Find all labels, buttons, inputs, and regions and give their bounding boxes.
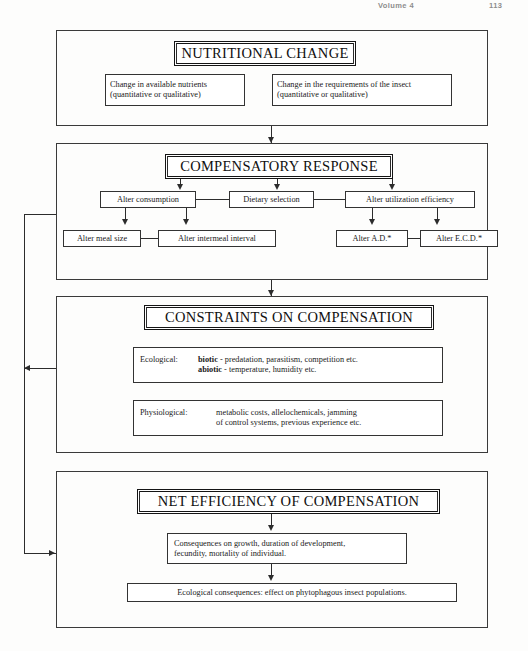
ecological-abiotic-text: temperature, humidity etc. [229, 365, 317, 374]
box-ecological-consequences-line1: Ecological consequences: effect on phyto… [128, 587, 456, 599]
box-insect-requirements: Change in the requirements of the insect… [272, 74, 452, 106]
box-dietary-selection-label: Dietary selection [230, 194, 313, 206]
running-head-right: 113 [489, 1, 502, 10]
arrowhead-alter-meal-size [122, 219, 128, 225]
box-alter-ecd: Alter E.C.D.* [420, 230, 498, 247]
heading-compensatory-response: COMPENSATORY RESPONSE [165, 154, 393, 179]
heading-nutritional-change-label: NUTRITIONAL CHANGE [181, 45, 348, 62]
box-alter-intermeal-interval-label: Alter intermeal interval [159, 233, 275, 245]
box-ecological-constraints: Ecological: biotic - predatation, parasi… [133, 347, 443, 383]
feedback-top-segment [24, 214, 56, 215]
box-alter-consumption-label: Alter consumption [101, 194, 195, 206]
box-alter-meal-size: Alter meal size [63, 230, 141, 247]
link-ad-to-ecd [408, 238, 420, 239]
heading-net-efficiency-of-compensation-label: NET EFFICIENCY OF COMPENSATION [158, 493, 420, 510]
arrowhead-alter-utilization [389, 184, 395, 190]
box-dietary-selection: Dietary selection [229, 191, 314, 208]
arrowhead-alter-ecd [434, 219, 440, 225]
running-head-left: Volume 4 [378, 1, 414, 10]
heading-constraints-on-compensation-label: CONSTRAINTS ON COMPENSATION [165, 309, 413, 326]
physiological-constraints-line2: of control systems, previous experience … [216, 418, 361, 427]
link-dietary-to-utilization [314, 199, 345, 200]
arrowhead-dietary-selection [274, 184, 280, 190]
ecological-biotic-term: biotic [198, 355, 218, 364]
box-alter-utilization-efficiency: Alter utilization efficiency [345, 191, 475, 208]
physiological-constraints-line1: metabolic costs, allelochemicals, jammin… [216, 408, 357, 417]
figure-page: Volume 4 113 NUTRITIONAL CHANGE Change i… [0, 0, 528, 651]
ecological-abiotic-term: abiotic [198, 365, 222, 374]
box-alter-consumption: Alter consumption [100, 191, 196, 208]
heading-constraints-on-compensation: CONSTRAINTS ON COMPENSATION [144, 305, 434, 330]
arrowhead-alter-intermeal-interval [183, 219, 189, 225]
heading-compensatory-response-label: COMPENSATORY RESPONSE [180, 158, 378, 175]
heading-net-efficiency-of-compensation: NET EFFICIENCY OF COMPENSATION [137, 489, 440, 514]
arrowhead-feedback-into-net-efficiency [49, 550, 55, 556]
ecological-biotic-text: predatation, parasitism, competition etc… [225, 355, 358, 364]
box-insect-requirements-line2: (quantitative or qualitative) [277, 90, 447, 100]
physiological-constraints-category: Physiological: [140, 408, 216, 428]
ecological-biotic-dash: - [220, 355, 223, 364]
box-alter-ad: Alter A.D.* [336, 230, 408, 247]
feedback-vertical-rail [24, 214, 25, 554]
ecological-constraints-category: Ecological: [140, 355, 198, 375]
box-insect-requirements-line1: Change in the requirements of the insect [277, 80, 447, 90]
box-alter-ad-label: Alter A.D.* [337, 233, 407, 245]
link-meal-size-to-intermeal [141, 238, 158, 239]
box-available-nutrients-line2: (quantitative or qualitative) [110, 90, 240, 100]
box-ecological-consequences: Ecological consequences: effect on phyto… [127, 583, 457, 602]
box-consequences-individual-line1: Consequences on growth, duration of deve… [174, 539, 402, 549]
box-alter-intermeal-interval: Alter intermeal interval [158, 230, 276, 247]
arrowhead-alter-ad [369, 219, 375, 225]
heading-nutritional-change: NUTRITIONAL CHANGE [174, 41, 356, 66]
ecological-abiotic-dash: - [224, 365, 227, 374]
box-alter-meal-size-label: Alter meal size [64, 233, 140, 245]
arrowhead-alter-consumption [177, 184, 183, 190]
arrowhead-ecological-consequences [268, 575, 274, 581]
box-alter-ecd-label: Alter E.C.D.* [421, 233, 497, 245]
box-physiological-constraints: Physiological: metabolic costs, alleloch… [133, 400, 443, 436]
box-available-nutrients: Change in available nutrients (quantitat… [105, 74, 245, 106]
box-available-nutrients-line1: Change in available nutrients [110, 80, 240, 90]
link-consumption-to-dietary [196, 199, 229, 200]
arrowhead-consequences-individual [268, 525, 274, 531]
box-alter-utilization-efficiency-label: Alter utilization efficiency [346, 194, 474, 206]
box-consequences-individual: Consequences on growth, duration of deve… [167, 533, 407, 564]
arrowhead-feedback-into-rail [24, 365, 30, 371]
box-consequences-individual-line2: fecundity, mortality of individual. [174, 549, 402, 559]
